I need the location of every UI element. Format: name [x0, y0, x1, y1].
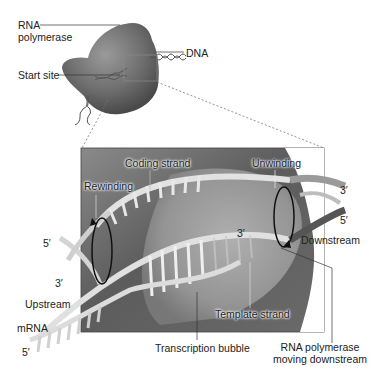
label-mrna: mRNA	[17, 322, 48, 334]
label-5prime-left: 5′	[43, 237, 51, 249]
label-coding-strand: Coding strand	[125, 157, 190, 169]
label-rna-polymerase-line2: polymerase	[18, 31, 72, 43]
label-5prime-mrna: 5′	[22, 346, 30, 358]
label-start-site: Start site	[18, 69, 59, 81]
label-unwinding: Unwinding	[252, 157, 301, 169]
label-3prime-rna: 3′	[237, 227, 245, 239]
label-rna-pol-moving-line1: RNA polymerase	[264, 341, 376, 353]
label-dna: DNA	[186, 47, 208, 59]
label-3prime-right: 3′	[340, 184, 348, 196]
label-template-strand: Template strand	[215, 308, 290, 320]
label-5prime-right: 5′	[340, 214, 348, 226]
rna-polymerase-blob	[62, 23, 159, 114]
label-rna-pol-moving: RNA polymerase moving downstream	[264, 341, 376, 365]
label-rna-polymerase-line1: RNA	[18, 19, 72, 31]
label-rewinding: Rewinding	[84, 180, 133, 192]
label-rna-polymerase: RNA polymerase	[18, 19, 72, 43]
label-downstream: Downstream	[301, 234, 360, 246]
zoom-line-right	[157, 82, 324, 148]
label-3prime-left: 3′	[55, 277, 63, 289]
label-upstream: Upstream	[25, 298, 71, 310]
label-transcription-bubble: Transcription bubble	[155, 342, 250, 354]
label-rna-pol-moving-line2: moving downstream	[264, 353, 376, 365]
